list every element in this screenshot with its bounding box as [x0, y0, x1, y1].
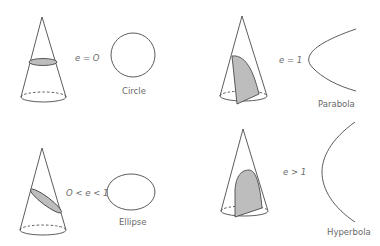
label-hyperbola: Hyperbola: [327, 227, 371, 237]
circle-cross-section: [29, 59, 57, 66]
panel-circle: e = O Circle: [21, 17, 155, 102]
circle-shape: [111, 33, 155, 77]
label-ellipse: Ellipse: [119, 217, 147, 227]
ellipse-cross-section: [28, 186, 63, 215]
conic-sections-diagram: e = O Circle e = 1 Parabola O < e < 1 El…: [0, 0, 380, 246]
equation-parabola: e = 1: [279, 55, 302, 65]
hyperbola-shape: [322, 122, 355, 222]
parabola-shape: [309, 29, 356, 91]
panel-parabola: e = 1 Parabola: [220, 16, 356, 109]
cone-ellipse: [20, 148, 66, 235]
label-parabola: Parabola: [318, 99, 355, 109]
panel-hyperbola: e > 1 Hyperbola: [221, 122, 371, 237]
equation-ellipse: O < e < 1: [66, 188, 108, 198]
cone-parabola: [220, 16, 267, 104]
cone-circle: [21, 17, 66, 102]
equation-circle: e = O: [75, 53, 100, 63]
label-circle: Circle: [122, 86, 146, 96]
equation-hyperbola: e > 1: [283, 167, 306, 177]
ellipse-shape: [107, 174, 155, 210]
parabola-cross-section: [232, 56, 259, 104]
panel-ellipse: O < e < 1 Ellipse: [20, 148, 155, 235]
cone-hyperbola: [221, 129, 268, 217]
